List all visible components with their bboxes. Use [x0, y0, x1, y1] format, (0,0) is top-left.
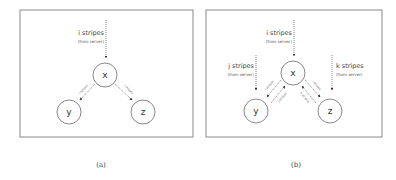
- panel-b-edge-y-x-label: j stripes: [276, 91, 288, 104]
- panel-a-edge-x-z-label: i stripes: [123, 84, 134, 96]
- panel-b: i stripes (from server) j stripes (from …: [206, 10, 382, 169]
- panel-b-caption: (b): [291, 161, 301, 169]
- panel-b-server-sublabel-z: (from server): [336, 72, 363, 77]
- panel-b-node-x-label: x: [290, 68, 296, 78]
- panel-b-node-z-label: z: [328, 106, 333, 116]
- figure: i stripes (from server) x y z i stripes …: [0, 0, 396, 180]
- panel-a-server-sublabel: (from server): [78, 39, 105, 44]
- panel-a-node-z-label: z: [141, 107, 146, 117]
- panel-b-server-sublabel-x: (from server): [266, 39, 293, 44]
- panel-b-edge-z-x-label: k stripes: [299, 91, 311, 104]
- panel-a-edge-x-y-label: i stripes: [78, 83, 89, 95]
- panel-a-caption: (a): [96, 161, 106, 169]
- panel-a-node-x-label: x: [102, 70, 108, 80]
- panel-b-server-label-x: i stripes: [266, 29, 292, 37]
- panel-a: i stripes (from server) x y z i stripes …: [20, 10, 193, 169]
- panel-b-server-label-y: j stripes: [227, 62, 254, 70]
- panel-a-node-y-label: y: [66, 107, 72, 117]
- panel-a-server-label: i stripes: [78, 29, 104, 37]
- panel-b-server-label-z: k stripes: [336, 62, 364, 70]
- panel-b-node-y-label: y: [253, 106, 259, 116]
- panel-b-edge-x-z-label: i stripes: [311, 80, 322, 92]
- panel-b-server-sublabel-y: (from server): [228, 72, 255, 77]
